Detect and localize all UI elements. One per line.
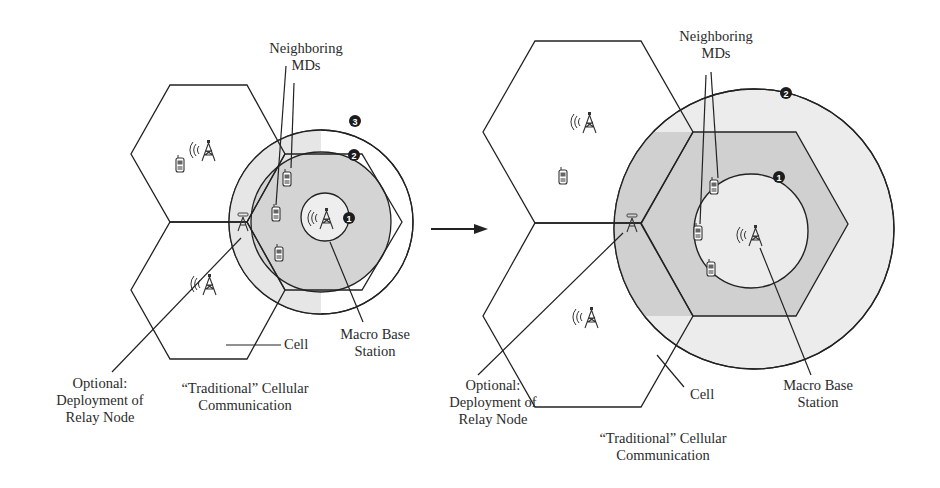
cell-tower-icon xyxy=(573,307,598,328)
svg-text:3: 3 xyxy=(352,117,357,127)
macro-base-station-label: Macro Base Station xyxy=(773,377,863,411)
mobile-device-icon xyxy=(559,167,567,184)
svg-text:1: 1 xyxy=(776,173,781,183)
macro-base-station-label: Macro Base Station xyxy=(330,326,420,360)
cell-label: Cell xyxy=(690,386,730,403)
relay-node-label: Optional: Deployment of Relay Node xyxy=(438,377,548,428)
mobile-device-icon xyxy=(176,155,184,172)
mobile-device-icon xyxy=(710,177,718,194)
mobile-device-icon xyxy=(694,223,702,240)
right-arrow-icon xyxy=(431,224,488,234)
leader-line xyxy=(112,238,241,372)
svg-text:2: 2 xyxy=(351,151,356,161)
right-panel: 1 2 xyxy=(478,41,894,407)
marker-3-icon: 3 xyxy=(349,115,361,127)
svg-text:2: 2 xyxy=(783,89,788,99)
leader-line xyxy=(478,233,623,375)
neighboring-mds-label: Neighboring MDs xyxy=(668,28,764,62)
marker-2-icon: 2 xyxy=(348,149,360,161)
cell-label: Cell xyxy=(284,336,324,353)
mobile-device-icon xyxy=(272,204,280,221)
marker-1-icon: 1 xyxy=(343,212,355,224)
cell-tower-icon xyxy=(190,140,215,161)
mobile-device-icon xyxy=(275,244,283,261)
traditional-communication-label: “Traditional” Cellular Communication xyxy=(170,380,320,414)
relay-node-label: Optional: Deployment of Relay Node xyxy=(45,375,155,426)
traditional-communication-label: “Traditional” Cellular Communication xyxy=(588,430,738,464)
cell-tower-icon xyxy=(571,112,596,133)
neighboring-mds-label: Neighboring MDs xyxy=(258,40,354,74)
svg-text:1: 1 xyxy=(346,214,351,224)
marker-2-icon: 2 xyxy=(780,87,792,99)
marker-1-icon: 1 xyxy=(773,171,785,183)
mobile-device-icon xyxy=(707,259,715,276)
mobile-device-icon xyxy=(283,169,291,186)
